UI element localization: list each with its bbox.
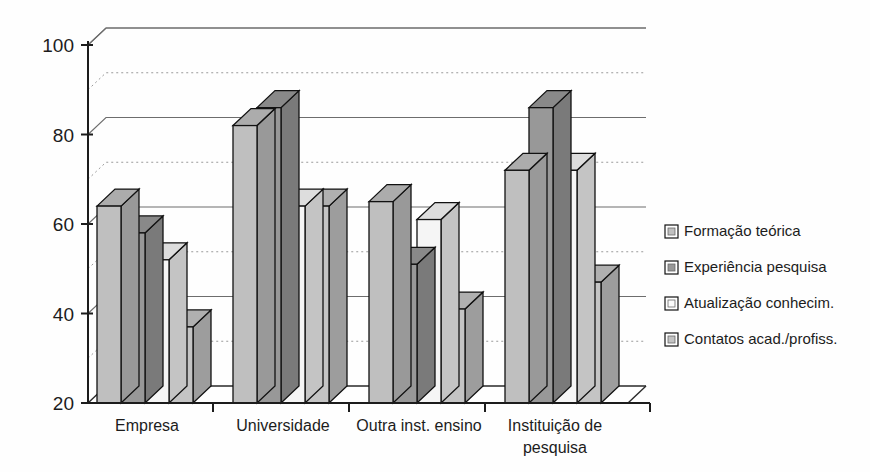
category-label: Outra inst. ensino	[356, 417, 482, 434]
y-tick-label: 20	[53, 393, 74, 414]
category-label: Empresa	[115, 417, 179, 434]
legend-swatch-fill	[668, 300, 675, 307]
y-axis: 10080604020	[42, 35, 93, 414]
chart-legend: Formação teóricaExperiência pesquisaAtua…	[665, 222, 837, 347]
x-axis	[81, 403, 650, 412]
back-wall-corner-edge	[88, 28, 106, 45]
legend-item[interactable]: Contatos acad./profiss.	[665, 330, 837, 347]
bar-side-face	[465, 292, 483, 403]
bar-side-face	[577, 153, 595, 403]
legend-label: Formação teórica	[684, 222, 801, 239]
legend-label: Contatos acad./profiss.	[684, 330, 837, 347]
y-tick-label: 60	[53, 214, 74, 235]
bar-chart: 10080604020 EmpresaUniversidadeOutra ins…	[0, 0, 870, 472]
legend-item[interactable]: Formação teórica	[665, 222, 801, 239]
gridline-major-100	[88, 28, 646, 45]
bar-side-face	[553, 91, 571, 403]
bar-side-face	[601, 265, 619, 403]
legend-swatch-fill	[668, 264, 675, 271]
legend-item[interactable]: Atualização conhecim.	[665, 294, 834, 311]
bar-series-group	[97, 91, 619, 403]
category-label-line2: pesquisa	[523, 439, 587, 456]
bar-side-face	[529, 153, 547, 403]
floor-right-edge	[628, 386, 646, 403]
legend-swatch-fill	[668, 228, 675, 235]
bar-group	[505, 91, 619, 403]
bar-side-face	[329, 189, 347, 403]
bar-group	[233, 91, 347, 403]
bar-side-face	[121, 189, 139, 403]
back-wall	[88, 28, 646, 45]
chart-page: 10080604020 EmpresaUniversidadeOutra ins…	[0, 0, 870, 472]
bar-front-face	[233, 126, 257, 403]
bar	[369, 185, 411, 403]
bar-side-face	[305, 189, 323, 403]
legend-swatch-fill	[668, 336, 675, 343]
category-labels: EmpresaUniversidadeOutra inst. ensinoIns…	[115, 417, 602, 456]
category-label: Instituição de	[508, 417, 602, 434]
legend-item[interactable]: Experiência pesquisa	[665, 258, 827, 275]
bar-group	[369, 185, 483, 403]
bar-side-face	[145, 216, 163, 403]
bar-side-face	[441, 203, 459, 403]
bar	[233, 109, 275, 403]
bar	[97, 189, 139, 403]
bar-side-face	[417, 247, 435, 403]
y-tick-label: 100	[42, 35, 74, 56]
bar-side-face	[393, 185, 411, 403]
category-label: Universidade	[236, 417, 329, 434]
bar-front-face	[505, 170, 529, 403]
gridline-minor-90	[88, 73, 646, 90]
bar	[505, 153, 547, 403]
y-tick-label: 80	[53, 125, 74, 146]
legend-label: Atualização conhecim.	[684, 294, 834, 311]
y-tick-label: 40	[53, 304, 74, 325]
bar-side-face	[281, 91, 299, 403]
bar-front-face	[369, 202, 393, 403]
bar-side-face	[257, 109, 275, 403]
bar-side-face	[169, 243, 187, 403]
bar-front-face	[97, 206, 121, 403]
legend-label: Experiência pesquisa	[684, 258, 827, 275]
